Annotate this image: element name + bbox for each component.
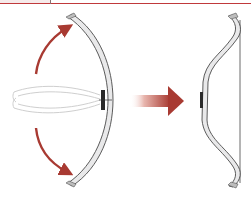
bow-illustration — [0, 0, 251, 201]
flexing-bow-icon — [66, 13, 113, 187]
flex-down-arrow-icon — [36, 128, 67, 172]
recurve-grip-icon — [200, 92, 203, 108]
recurve-bow-icon — [200, 13, 240, 188]
flex-up-arrow-icon — [36, 28, 67, 74]
diagram-canvas — [0, 0, 251, 201]
ghost-limbs — [13, 86, 100, 113]
transition-arrow-icon — [130, 86, 184, 116]
